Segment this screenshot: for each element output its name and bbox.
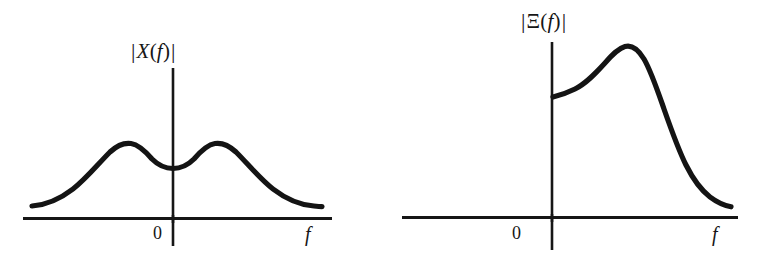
origin-label-right: 0	[512, 224, 521, 242]
curve-left-magnitude-spectrum	[32, 143, 322, 206]
y-axis-label-left-bar-close: |	[170, 38, 177, 63]
plot-right-svg	[380, 0, 760, 265]
origin-label-left: 0	[153, 224, 162, 242]
y-axis-label-left-paren-open: (	[150, 39, 157, 63]
y-axis-label-right: |Ξ(f)|	[520, 10, 567, 32]
panel-left-magnitude-spectrum: |X(f)| 0 f	[0, 0, 380, 265]
curve-right-analytic-spectrum	[553, 46, 731, 207]
panel-right-analytic-spectrum: |Ξ(f)| 0 f	[380, 0, 760, 265]
y-axis-label-left-function: X	[137, 39, 150, 63]
y-axis-label-left: |X(f)|	[130, 40, 177, 62]
y-axis-label-right-bar-open: |	[520, 8, 527, 33]
y-axis-label-right-bar-close: |	[561, 8, 568, 33]
y-axis-label-left-bar-open: |	[130, 38, 137, 63]
x-axis-label-right: f	[712, 224, 718, 244]
y-axis-label-right-function: Ξ	[527, 9, 541, 33]
y-axis-label-left-paren-close: )	[163, 39, 170, 63]
y-axis-label-right-paren-close: )	[554, 9, 561, 33]
x-axis-label-left: f	[305, 224, 311, 244]
figure-root: |X(f)| 0 f |Ξ(f)| 0 f	[0, 0, 760, 265]
y-axis-label-right-paren-open: (	[540, 9, 547, 33]
plot-left-svg	[0, 0, 380, 265]
